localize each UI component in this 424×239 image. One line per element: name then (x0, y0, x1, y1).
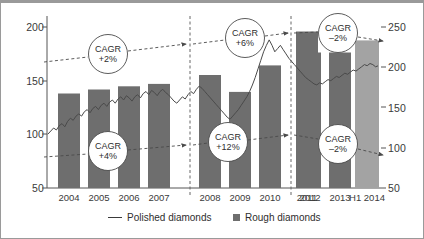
cagr-bubble-polished-1-value: +2% (99, 54, 117, 64)
cagr-bubble-polished-1: CAGR +2% (89, 35, 128, 74)
cagr-bubble-rough-1-value: +4% (99, 151, 117, 161)
chart-container: 200 150 100 50 250 200 150 100 50 (0, 0, 424, 239)
cagr-bubble-rough-3-title: CAGR (325, 134, 352, 144)
cagr-bubble-polished-3: CAGR –2% (319, 14, 358, 53)
x-axis-tick-2010: 2010 (249, 193, 291, 203)
cagr-bubble-rough-3: CAGR –2% (319, 125, 358, 164)
cagr-bubble-rough-2-title: CAGR (215, 132, 242, 142)
bar-2010 (259, 65, 281, 188)
cagr-bubble-polished-1-title: CAGR (95, 44, 122, 54)
bar-2004 (58, 94, 80, 189)
cagr-bubble-rough-1-title: CAGR (95, 141, 122, 151)
legend-label-rough: Rough diamonds (245, 212, 321, 223)
legend-label-polished: Polished diamonds (127, 212, 212, 223)
cagr-bubble-polished-2-value: +6% (236, 38, 254, 48)
cagr-bubble-rough-2: CAGR +12% (209, 123, 248, 162)
bar-h1-2014 (355, 40, 379, 188)
x-axis-tick-h1-2014: H1 2014 (346, 193, 388, 203)
cagr-bubble-polished-2-title: CAGR (232, 28, 259, 38)
bar-2012 (299, 53, 321, 189)
plot-area: CAGR +2% CAGR +6% CAGR –2% CAGR +4% CAGR… (0, 0, 424, 239)
cagr-bubble-rough-1: CAGR +4% (89, 132, 128, 171)
line-swatch-icon (108, 217, 122, 218)
cagr-bubble-polished-3-title: CAGR (325, 23, 352, 33)
legend-item-polished: Polished diamonds (108, 213, 212, 223)
cagr-bubble-polished-3-value: –2% (329, 33, 347, 43)
cagr-bubble-polished-2: CAGR +6% (226, 19, 265, 58)
cagr-bubble-rough-2-value: +12% (216, 142, 239, 152)
bar-2013 (329, 53, 351, 189)
bar-2007 (148, 84, 170, 188)
square-swatch-icon (233, 214, 240, 221)
cagr-bubble-rough-3-value: –2% (329, 144, 347, 154)
x-axis-tick-2007: 2007 (138, 193, 180, 203)
legend-item-rough: Rough diamonds (233, 213, 321, 223)
